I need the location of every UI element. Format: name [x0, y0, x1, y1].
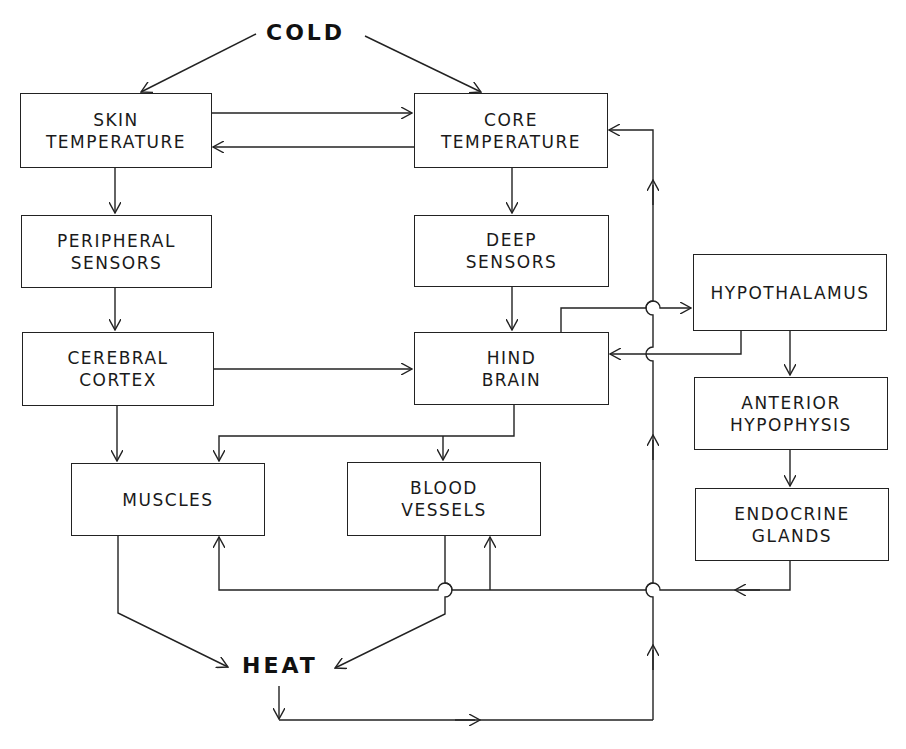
node-anterior-hypophysis: ANTERIOR HYPOPHYSIS — [694, 377, 888, 450]
node-label: SENSORS — [71, 252, 163, 274]
node-hypothalamus: HYPOTHALAMUS — [693, 254, 887, 331]
node-label: CORTEX — [79, 369, 157, 391]
edge-cold-skin — [141, 34, 256, 92]
node-deep-sensors: DEEP SENSORS — [414, 215, 609, 287]
node-label: ANTERIOR — [741, 392, 841, 414]
edge-hind-hypothalamus — [561, 301, 691, 332]
node-blood-vessels: BLOOD VESSELS — [347, 462, 541, 536]
node-peripheral-sensors: PERIPHERAL SENSORS — [21, 215, 212, 288]
edge-hypothalamus-hind — [610, 330, 741, 354]
edge-hind-muscles — [219, 404, 514, 461]
node-label: HIND — [487, 347, 537, 369]
node-core-temperature: CORE TEMPERATURE — [414, 93, 608, 168]
edge-muscles-heat — [118, 535, 228, 667]
edge-blood-heat — [335, 535, 452, 668]
node-skin-temperature: SKIN TEMPERATURE — [20, 93, 212, 168]
node-label: TEMPERATURE — [441, 131, 581, 153]
node-label: TEMPERATURE — [46, 131, 186, 153]
node-endocrine-glands: ENDOCRINE GLANDS — [695, 488, 889, 561]
node-label: DEEP — [486, 229, 537, 251]
node-label: CEREBRAL — [67, 347, 168, 369]
node-label: SKIN — [93, 109, 139, 131]
node-label: PERIPHERAL — [57, 230, 176, 252]
node-label: VESSELS — [401, 499, 486, 521]
node-hind-brain: HIND BRAIN — [414, 332, 609, 405]
node-label: CORE — [484, 109, 538, 131]
node-label: SENSORS — [466, 251, 558, 273]
node-cerebral-cortex: CEREBRAL CORTEX — [22, 332, 214, 406]
node-label: ENDOCRINE — [734, 503, 850, 525]
node-muscles: MUSCLES — [71, 463, 265, 536]
node-label: MUSCLES — [122, 489, 213, 511]
edge-cold-core — [365, 36, 481, 92]
node-label: GLANDS — [752, 525, 832, 547]
node-label: BLOOD — [410, 477, 478, 499]
node-label: HYPOTHALAMUS — [711, 282, 870, 304]
heat-label: HEAT — [242, 653, 318, 678]
node-label: BRAIN — [482, 369, 542, 391]
cold-label: COLD — [266, 20, 345, 45]
edge-heat-core-vertical — [609, 130, 653, 720]
thermoregulation-diagram: COLD HEAT SKIN TEMPERATURE CORE TEMPERAT… — [0, 0, 906, 749]
node-label: HYPOPHYSIS — [730, 414, 852, 436]
